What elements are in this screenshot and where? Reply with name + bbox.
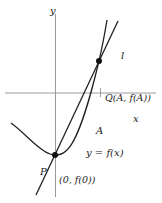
- function-diagram: y l Q(A, f(A)) x A y = f(x) P (0, f(0)): [0, 0, 162, 203]
- point-P-coords-label: (0, f(0)): [59, 174, 96, 185]
- curve-label: y = f(x): [85, 147, 124, 158]
- y-axis-label: y: [49, 5, 56, 16]
- x-axis-label: x: [133, 113, 139, 124]
- line-l: [36, 21, 118, 195]
- point-Q-label: Q(A, f(A)): [105, 92, 151, 103]
- curve-f: [11, 20, 107, 155]
- line-l-label: l: [121, 50, 124, 61]
- point-P: [52, 152, 58, 158]
- point-Q: [96, 58, 102, 64]
- A-label: A: [95, 125, 103, 136]
- point-P-label: P: [39, 166, 47, 177]
